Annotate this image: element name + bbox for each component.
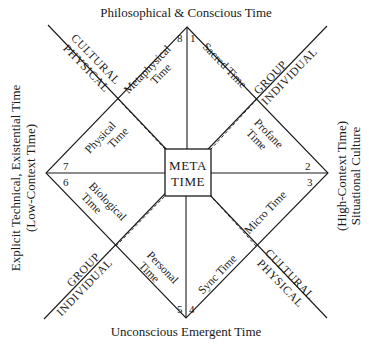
center-label-line1: META bbox=[169, 158, 207, 173]
sector-number-2: 2 bbox=[305, 160, 311, 172]
sector-number-6: 6 bbox=[63, 176, 69, 188]
axis-label-bottom: Unconscious Emergent Time bbox=[111, 324, 262, 339]
axis-label-top: Philosophical & Conscious Time bbox=[100, 5, 272, 20]
center-label-line2: TIME bbox=[171, 174, 205, 189]
sector-label-sacred-time: Sacred Time bbox=[200, 40, 249, 90]
meta-time-diagram: META TIME Philosophical & Conscious Time… bbox=[0, 0, 369, 347]
sector-number-7: 7 bbox=[63, 160, 69, 172]
dashed-line-top-right bbox=[211, 99, 257, 149]
sector-number-5: 5 bbox=[177, 303, 183, 315]
sector-number-8: 8 bbox=[177, 32, 183, 44]
sector-number-3: 3 bbox=[307, 176, 313, 188]
sector-label-sync-time: Sync Time bbox=[196, 252, 240, 297]
axis-label-right-line2: Situational Culture bbox=[348, 126, 363, 225]
sector-number-4: 4 bbox=[189, 303, 195, 315]
axis-label-right-line1: (High-Context Time) bbox=[334, 121, 349, 231]
sector-number-1: 1 bbox=[190, 32, 196, 44]
axis-label-left-line2: (Low-Context Time) bbox=[23, 124, 38, 232]
sector-label-micro-time: Micro Time bbox=[242, 188, 289, 236]
axis-label-left-line1: Explicit Technical, Existential Time bbox=[8, 84, 23, 271]
dashed-line-bottom-left bbox=[116, 196, 165, 246]
